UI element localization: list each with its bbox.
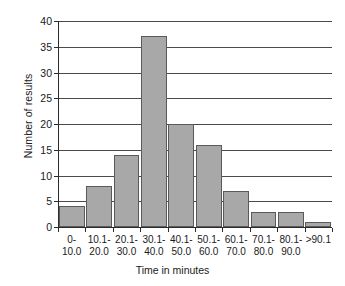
y-tick-label: 10 [40, 170, 52, 182]
x-tick-mark [332, 228, 333, 232]
gridline [58, 124, 332, 125]
gridline [58, 21, 332, 22]
x-tick-mark [195, 228, 196, 232]
gridline [58, 73, 332, 74]
bar [141, 36, 167, 227]
x-tick-mark [305, 228, 306, 232]
x-axis-line [58, 227, 332, 228]
y-tick-label: 5 [46, 195, 52, 207]
bar [114, 155, 140, 227]
bar [86, 186, 112, 227]
y-axis-line [58, 21, 59, 228]
x-tick-mark [140, 228, 141, 232]
x-tick-mark [277, 228, 278, 232]
x-tick-label-line2: 90.0 [270, 246, 311, 258]
gridline [58, 98, 332, 99]
plot-area: 0510152025303540 0-10.010.1-20.020.1-30.… [58, 21, 332, 228]
x-tick-mark [250, 228, 251, 232]
x-tick-label: >90.1 [298, 234, 339, 246]
y-tick-label: 30 [40, 67, 52, 79]
bar [278, 212, 304, 227]
y-tick-label: 35 [40, 41, 52, 53]
bar [59, 206, 85, 227]
bar [251, 212, 277, 227]
y-tick-label: 25 [40, 92, 52, 104]
x-tick-mark [85, 228, 86, 232]
x-tick-mark [58, 228, 59, 232]
x-axis-title: Time in minutes [0, 264, 345, 276]
y-tick-label: 40 [40, 15, 52, 27]
y-tick-label: 0 [46, 221, 52, 233]
y-tick-label: 20 [40, 118, 52, 130]
x-tick-label-line1: >90.1 [298, 234, 339, 246]
gridline [58, 47, 332, 48]
bar [223, 191, 249, 227]
histogram-figure: Number of results 0510152025303540 0-10.… [0, 0, 345, 286]
x-tick-mark [168, 228, 169, 232]
x-tick-mark [113, 228, 114, 232]
y-axis-title: Number of results [22, 26, 34, 206]
bar [196, 145, 222, 227]
x-tick-mark [222, 228, 223, 232]
bar [168, 124, 194, 227]
y-tick-label: 15 [40, 144, 52, 156]
